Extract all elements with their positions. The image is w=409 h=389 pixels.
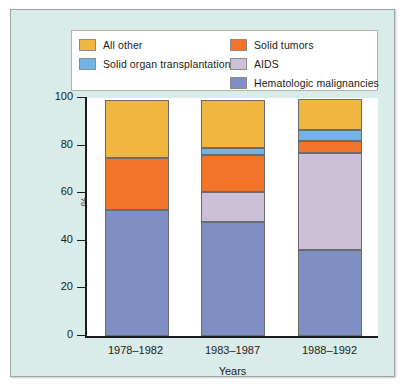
y-axis-tick-label: 80 xyxy=(61,138,73,150)
x-axis-title: Years xyxy=(87,365,378,377)
bar-2[interactable] xyxy=(201,98,265,336)
x-axis-label-3: 1988–1992 xyxy=(298,344,362,356)
chart-plot-wrapper: % 020406080100 1978–19821983–19871988–19… xyxy=(71,94,378,342)
legend-swatch-aids xyxy=(230,58,247,70)
legend-label-aids: AIDS xyxy=(254,58,279,70)
bar-segment[interactable] xyxy=(201,155,265,192)
bar-segment[interactable] xyxy=(201,192,265,222)
y-axis-tick-label: 60 xyxy=(61,185,73,197)
y-axis-tick-label: 40 xyxy=(61,233,73,245)
bar-segment[interactable] xyxy=(298,153,362,251)
legend-item-hematologic-malignancies: Hematologic malignancies xyxy=(230,74,379,91)
bar-segment[interactable] xyxy=(201,100,265,148)
bar-3[interactable] xyxy=(298,98,362,336)
y-axis-tick: 0 xyxy=(77,335,87,336)
y-axis-tick-label: 0 xyxy=(67,328,73,340)
bar-segment[interactable] xyxy=(298,141,362,153)
y-axis-tick: 60 xyxy=(77,192,87,193)
chart-legend: All other Solid organ transplantations S… xyxy=(71,30,378,91)
legend-swatch-solid-tumors xyxy=(230,39,247,51)
y-axis-tick: 80 xyxy=(77,145,87,146)
x-axis-label-2: 1983–1987 xyxy=(201,344,265,356)
bar-1[interactable] xyxy=(105,98,169,336)
legend-item-aids: AIDS xyxy=(230,55,379,72)
x-axis-label-1: 1978–1982 xyxy=(104,344,168,356)
legend-column-right: Solid tumors AIDS Hematologic malignanci… xyxy=(230,36,379,93)
y-axis-tick: 20 xyxy=(77,287,87,288)
y-axis-tick-label: 100 xyxy=(55,90,73,102)
y-axis-tick: 40 xyxy=(77,240,87,241)
legend-swatch-solid-organ-transplantations xyxy=(79,58,96,70)
bar-segment[interactable] xyxy=(201,148,265,155)
legend-label-solid-organ-transplantations: Solid organ transplantations xyxy=(103,58,236,70)
figure-panel: All other Solid organ transplantations S… xyxy=(10,9,395,377)
bar-segment[interactable] xyxy=(105,210,169,336)
legend-column-left: All other Solid organ transplantations xyxy=(79,36,236,74)
legend-label-solid-tumors: Solid tumors xyxy=(254,39,314,51)
y-axis-tick: 100 xyxy=(77,97,87,98)
y-axis-tick-label: 20 xyxy=(61,280,73,292)
legend-label-hematologic-malignancies: Hematologic malignancies xyxy=(254,77,379,89)
legend-item-solid-organ-transplantations: Solid organ transplantations xyxy=(79,55,236,72)
legend-swatch-hematologic-malignancies xyxy=(230,77,247,89)
bar-segment[interactable] xyxy=(298,250,362,336)
x-axis-tick-labels: 1978–19821983–19871988–1992 xyxy=(87,344,378,356)
legend-swatch-all-other xyxy=(79,39,96,51)
legend-label-all-other: All other xyxy=(103,39,142,51)
bar-segment[interactable] xyxy=(298,99,362,130)
bar-group xyxy=(89,98,378,336)
plot-area: 020406080100 xyxy=(85,98,378,338)
bar-segment[interactable] xyxy=(105,100,169,157)
bar-segment[interactable] xyxy=(201,222,265,336)
bar-segment[interactable] xyxy=(105,158,169,210)
legend-item-solid-tumors: Solid tumors xyxy=(230,36,379,53)
bar-segment[interactable] xyxy=(298,130,362,141)
legend-item-all-other: All other xyxy=(79,36,236,53)
